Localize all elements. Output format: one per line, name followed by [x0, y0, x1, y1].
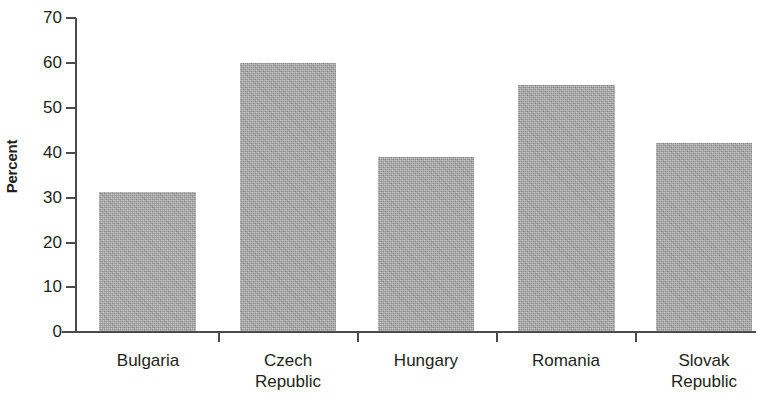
bar-czech-republic: [240, 63, 336, 331]
x-axis-tick-2: [357, 332, 359, 342]
x-axis-label-czech-republic: Czech Republic: [227, 350, 349, 392]
x-axis-label-hungary: Hungary: [365, 350, 487, 371]
x-axis-label-bulgaria: Bulgaria: [87, 350, 209, 371]
y-axis-label-70: 70: [18, 9, 62, 26]
y-axis-tick-40: [66, 152, 76, 154]
y-axis-tick-60: [66, 62, 76, 64]
bar-slovak-republic: [656, 143, 752, 331]
x-axis-line: [62, 331, 756, 333]
y-axis-tick-0: [66, 331, 76, 333]
bar-romania: [518, 85, 615, 331]
y-axis-label-30: 30: [18, 189, 62, 206]
y-axis-label-40: 40: [18, 144, 62, 161]
y-axis-tick-50: [66, 107, 76, 109]
x-axis-label-slovak-republic: Slovak Republic: [643, 350, 765, 392]
y-axis-label-0: 0: [18, 323, 62, 340]
y-axis-label-60: 60: [18, 54, 62, 71]
bar-chart: Percent 70 60 50 40 30 20 10 0 Bulgaria …: [0, 0, 770, 398]
y-axis-label-10: 10: [18, 278, 62, 295]
bar-hungary: [378, 157, 474, 331]
x-axis-tick-1: [218, 332, 220, 342]
x-axis-label-romania: Romania: [505, 350, 627, 371]
y-axis-label-20: 20: [18, 234, 62, 251]
x-axis-tick-4: [635, 332, 637, 342]
y-axis-tick-70: [66, 17, 76, 19]
bar-bulgaria: [99, 192, 196, 331]
y-axis-tick-30: [66, 197, 76, 199]
y-axis-tick-20: [66, 242, 76, 244]
y-axis-title: Percent: [3, 127, 20, 207]
y-axis-label-50: 50: [18, 99, 62, 116]
y-axis-tick-10: [66, 286, 76, 288]
x-axis-tick-3: [496, 332, 498, 342]
